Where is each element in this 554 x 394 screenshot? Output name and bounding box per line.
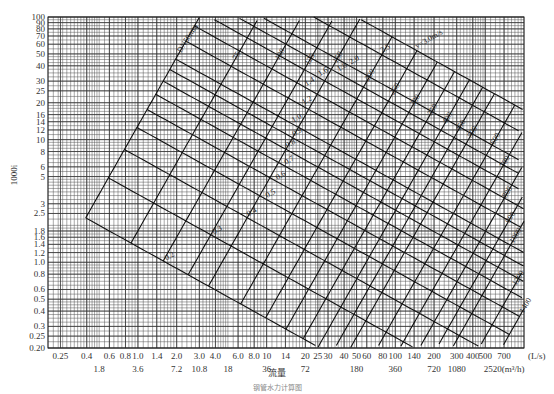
svg-text:5: 5: [41, 172, 46, 182]
svg-text:50: 50: [352, 351, 362, 361]
svg-text:1.4: 1.4: [151, 351, 163, 361]
svg-text:0.8: 0.8: [120, 351, 132, 361]
svg-text:25: 25: [36, 86, 46, 96]
svg-text:2.5: 2.5: [34, 208, 46, 218]
svg-text:0.3: 0.3: [34, 321, 46, 331]
svg-text:200: 200: [427, 351, 441, 361]
svg-text:10: 10: [262, 351, 272, 361]
figure-caption: 钢管水力计算图: [0, 382, 554, 392]
svg-text:30: 30: [36, 76, 46, 86]
svg-text:10: 10: [36, 135, 46, 145]
svg-text:0.5: 0.5: [34, 294, 46, 304]
svg-text:0.6: 0.6: [34, 284, 46, 294]
svg-text:0.5: 0.5: [264, 187, 277, 200]
svg-text:16: 16: [36, 110, 46, 120]
svg-text:40: 40: [36, 61, 46, 71]
svg-text:0.25: 0.25: [29, 331, 45, 341]
svg-text:6: 6: [41, 162, 46, 172]
svg-text:8.0: 8.0: [249, 351, 261, 361]
svg-text:30: 30: [324, 351, 334, 361]
svg-text:1.0: 1.0: [132, 351, 144, 361]
x-axis-label: 流量: [0, 366, 554, 379]
svg-text:500: 500: [479, 351, 493, 361]
y-axis-label: 1000i: [9, 165, 19, 186]
svg-text:1.0: 1.0: [34, 257, 46, 267]
nomogram-chart: 0.200.250.30.40.50.60.81.01.21.41.61.82.…: [0, 0, 554, 394]
svg-text:0.9: 0.9: [290, 125, 303, 138]
svg-text:300: 300: [450, 351, 464, 361]
svg-text:2.0: 2.0: [171, 351, 183, 361]
svg-text:0.6: 0.6: [104, 351, 116, 361]
svg-text:(L/s): (L/s): [528, 351, 546, 361]
svg-text:0.4: 0.4: [34, 306, 46, 316]
svg-text:6.0: 6.0: [232, 351, 244, 361]
svg-text:1.8: 1.8: [34, 226, 46, 236]
svg-text:20: 20: [36, 98, 46, 108]
svg-text:0.4: 0.4: [245, 205, 258, 218]
svg-text:0.8: 0.8: [34, 269, 46, 279]
svg-text:0.25: 0.25: [53, 351, 69, 361]
svg-text:0.2: 0.2: [163, 250, 176, 263]
svg-text:4.0: 4.0: [210, 351, 222, 361]
svg-text:0.20: 0.20: [29, 343, 45, 353]
svg-text:3.0: 3.0: [194, 351, 206, 361]
svg-text:50: 50: [36, 49, 46, 59]
svg-text:0.4: 0.4: [81, 351, 93, 361]
svg-text:3: 3: [41, 199, 46, 209]
svg-text:700: 700: [497, 351, 511, 361]
svg-text:14: 14: [281, 351, 291, 361]
svg-text:60: 60: [362, 351, 372, 361]
svg-text:80: 80: [378, 351, 388, 361]
svg-text:20: 20: [301, 351, 311, 361]
svg-text:100: 100: [32, 12, 46, 22]
svg-text:140: 140: [407, 351, 421, 361]
svg-text:100: 100: [389, 351, 403, 361]
svg-text:8: 8: [41, 147, 46, 157]
svg-text:40: 40: [340, 351, 350, 361]
svg-text:25: 25: [313, 351, 323, 361]
svg-text:0.7: 0.7: [283, 154, 296, 167]
